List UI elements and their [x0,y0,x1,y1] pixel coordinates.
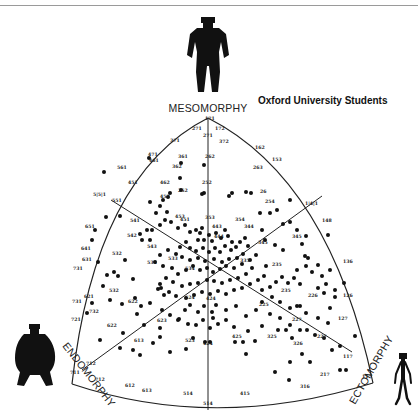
svg-text:621: 621 [84,294,94,299]
svg-text:561: 561 [117,165,127,170]
svg-text:235: 235 [272,262,282,267]
svg-text:712: 712 [86,361,96,366]
svg-text:171: 171 [205,116,215,121]
svg-text:263: 263 [253,165,263,170]
svg-text:344: 344 [244,224,254,229]
somatochart-axes [82,118,352,410]
svg-text:262: 262 [205,154,215,159]
svg-text:235: 235 [281,288,291,293]
svg-text:415: 415 [240,391,250,396]
svg-text:252: 252 [202,180,212,185]
somatochart: MESOMORPHY ENDOMORPHY ECTOMORPHY Oxford … [0,0,418,412]
svg-text:651: 651 [85,224,95,229]
svg-text:622: 622 [107,323,117,328]
svg-text:731: 731 [73,266,83,271]
svg-text:148: 148 [322,218,332,223]
svg-text:271: 271 [203,133,213,138]
svg-text:462: 462 [160,180,170,185]
svg-text:451: 451 [128,180,138,185]
svg-text:326: 326 [293,341,303,346]
svg-text:443: 443 [212,224,222,229]
svg-text:345: 345 [292,234,302,239]
svg-text:354: 354 [235,217,245,222]
svg-text:712: 712 [95,377,105,382]
svg-text:136: 136 [343,259,353,264]
svg-text:26: 26 [260,189,266,194]
svg-text:271: 271 [192,126,202,131]
chart-title: Oxford University Students [258,95,388,106]
svg-text:542: 542 [127,233,137,238]
svg-text:425: 425 [232,334,242,339]
svg-text:254: 254 [265,199,275,204]
ectomorphy-label: ECTOMORPHY [346,333,395,406]
svg-text:623: 623 [157,318,167,323]
endomorph-figure-icon [15,324,55,386]
svg-text:731: 731 [72,299,82,304]
svg-text:5|5|1: 5|5|1 [93,192,106,198]
svg-text:711: 711 [70,370,80,375]
svg-text:631: 631 [82,257,92,262]
svg-text:127: 127 [338,316,348,321]
svg-text:227: 227 [292,317,302,322]
svg-text:353: 353 [205,215,215,220]
svg-text:316: 316 [300,384,310,389]
svg-text:217: 217 [320,372,330,377]
mesomorph-figure-icon [187,17,229,92]
svg-text:172: 172 [215,126,225,131]
mesomorphy-label: MESOMORPHY [168,102,247,114]
svg-text:514: 514 [183,391,193,396]
svg-text:153: 153 [272,157,282,162]
svg-text:162: 162 [255,145,265,150]
svg-text:533: 533 [168,256,178,261]
svg-text:613: 613 [134,338,144,343]
svg-text:532: 532 [109,288,119,293]
svg-text:1|4|1: 1|4|1 [305,201,318,207]
svg-text:622: 622 [128,299,138,304]
svg-text:732: 732 [89,309,99,314]
svg-text:361: 361 [178,154,188,159]
svg-text:325: 325 [267,334,277,339]
svg-text:612: 612 [125,383,135,388]
svg-text:126: 126 [343,293,353,298]
svg-text:514: 514 [203,401,213,406]
ectomorph-figure-icon [395,353,411,404]
svg-text:424: 424 [206,296,216,301]
svg-text:543: 543 [147,244,157,249]
svg-text:117: 117 [362,374,372,379]
svg-text:641: 641 [81,246,91,251]
svg-text:372: 372 [219,139,229,144]
svg-text:371: 371 [170,138,180,143]
svg-text:117: 117 [343,354,353,359]
svg-text:226: 226 [308,293,318,298]
data-points [85,156,357,382]
svg-text:532: 532 [112,251,122,256]
svg-text:721: 721 [71,317,81,322]
svg-text:613: 613 [142,388,152,393]
svg-text:551: 551 [112,198,122,203]
svg-text:541: 541 [130,218,140,223]
svg-text:451: 451 [180,217,190,222]
